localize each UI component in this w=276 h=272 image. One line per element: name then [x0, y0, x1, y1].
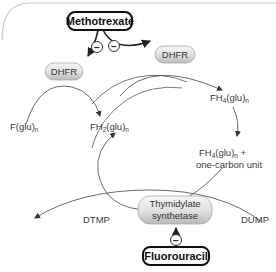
- arrow-dhfr-top: [120, 75, 222, 96]
- svg-text:Thymidylate: Thymidylate: [149, 198, 200, 209]
- label-dump: DUMP: [241, 214, 269, 225]
- enzyme-thymidylate-synthetase: Thymidylate synthetase: [138, 196, 212, 224]
- svg-text:synthetase: synthetase: [152, 210, 198, 221]
- svg-text:DHFR: DHFR: [162, 49, 189, 60]
- drug-fluorouracil: Fluorouracil: [143, 247, 209, 265]
- arrow-dhfr-left: [26, 86, 100, 124]
- svg-text:−: −: [173, 235, 179, 246]
- frame-border: [2, 3, 276, 40]
- folate-pathway-diagram: − − − Methotrexate Fluorouracil DHFR DHF…: [0, 0, 276, 272]
- label-fh4-glu-n: FH4(glu)n: [210, 92, 249, 104]
- central-cycle: [92, 75, 187, 148]
- arrow-fh4-to-one-carbon: [233, 107, 238, 136]
- inhibition-symbol-methotrexate-left: −: [92, 42, 103, 53]
- drug-methotrexate: Methotrexate: [66, 12, 134, 30]
- label-f-glu-n: F(glu)n: [10, 121, 39, 133]
- inhibition-symbol-methotrexate-right: −: [109, 41, 120, 52]
- label-fh2-glu-n: FH2(glu)n: [90, 121, 129, 133]
- label-one-carbon-unit: one-carbon unit: [196, 159, 262, 170]
- enzyme-dhfr-left: DHFR: [45, 63, 83, 80]
- enzyme-dhfr-top: DHFR: [155, 46, 195, 63]
- label-fh4-glu-n-plus: FH4(glu)n +: [199, 147, 247, 159]
- inhibition-symbol-fluorouracil: −: [171, 235, 182, 246]
- svg-text:Methotrexate: Methotrexate: [66, 15, 134, 27]
- svg-text:Fluorouracil: Fluorouracil: [144, 250, 208, 262]
- svg-text:−: −: [111, 41, 117, 52]
- svg-text:−: −: [94, 42, 100, 53]
- label-dtmp: DTMP: [83, 214, 110, 225]
- svg-text:DHFR: DHFR: [51, 66, 78, 77]
